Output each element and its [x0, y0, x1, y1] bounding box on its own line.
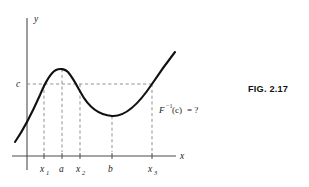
x-tick-label-x3-base: x: [147, 164, 153, 174]
x-tick-label-x1: x 1: [39, 164, 49, 176]
figure-caption: FIG. 2.17: [248, 84, 288, 94]
x-tick-label-a: a: [59, 164, 64, 174]
function-curve: [15, 52, 175, 142]
x-tick-label-x1-sub: 1: [46, 169, 49, 176]
x-tick-label-x3: x 3: [147, 164, 157, 176]
x-tick-label-a-base: a: [59, 164, 64, 174]
x-tick-label-x2-base: x: [75, 164, 81, 174]
x-tick-label-x3-sub: 3: [153, 169, 157, 176]
inverse-function-annotation: F −1 (c) = ?: [158, 102, 198, 115]
annotation-function-name: F: [158, 105, 165, 115]
annotation-argument: (c): [172, 105, 182, 115]
figure-container: y x c x 1 a x 2 b x 3 F −1 (c) = ?: [0, 0, 309, 187]
x-tick-label-x1-base: x: [39, 164, 45, 174]
y-axis-label: y: [33, 14, 39, 24]
x-tick-label-x2-sub: 2: [82, 169, 86, 176]
annotation-equals-question: = ?: [187, 105, 198, 115]
x-tick-label-b: b: [108, 164, 113, 174]
x-axis-label: x: [179, 151, 185, 161]
y-tick-label-c: c: [16, 79, 21, 89]
x-tick-label-b-base: b: [108, 164, 113, 174]
x-tick-label-x2: x 2: [75, 164, 86, 176]
